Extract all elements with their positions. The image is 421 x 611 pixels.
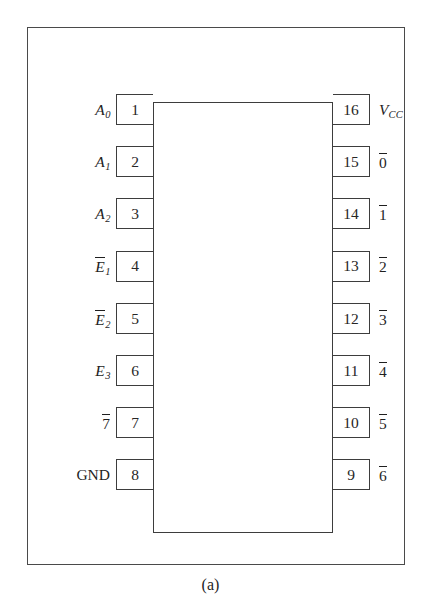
pin-row: 114 xyxy=(333,355,421,386)
pin-number-pad: 9 xyxy=(333,459,370,490)
pin-signal-label: 6 xyxy=(379,466,387,484)
signal-subscript: 0 xyxy=(105,110,110,121)
pin-row: 132 xyxy=(333,251,421,282)
active-low-overbar: E xyxy=(95,310,104,328)
pin-signal-label: 0 xyxy=(379,153,387,171)
pin-row: A01 xyxy=(58,94,153,125)
pin-number-pad: 3 xyxy=(116,198,153,229)
signal-subscript: CC xyxy=(388,110,402,121)
active-low-overbar: 4 xyxy=(379,362,387,380)
pin-signal-label: 1 xyxy=(379,205,387,223)
active-low-overbar: 3 xyxy=(379,310,387,328)
signal-subscript: 2 xyxy=(105,214,110,225)
active-low-overbar: 0 xyxy=(379,153,387,171)
pin-number-pad: 8 xyxy=(116,459,153,490)
pin-row: E36 xyxy=(58,355,153,386)
pin-number-pad: 6 xyxy=(116,355,153,386)
pin-signal-label: 5 xyxy=(379,414,387,432)
pin-number-pad: 5 xyxy=(116,303,153,334)
signal-name-text: A xyxy=(95,154,104,170)
active-low-overbar: 6 xyxy=(379,466,387,484)
pin-number-pad: 4 xyxy=(116,251,153,282)
pin-signal-label: A1 xyxy=(95,154,110,170)
signal-subscript: 1 xyxy=(105,267,110,278)
pin-signal-label: 2 xyxy=(379,257,387,275)
pin-number-pad: 2 xyxy=(116,146,153,177)
pin-signal-label: E2 xyxy=(95,310,110,328)
pin-number-pad: 14 xyxy=(333,198,370,229)
pin-row: GND8 xyxy=(58,459,153,490)
pin-number-pad: 15 xyxy=(333,146,370,177)
figure-caption: (a) xyxy=(0,576,421,594)
active-low-overbar: E xyxy=(95,257,104,275)
pin-row: 123 xyxy=(333,303,421,334)
pin-number-pad: 7 xyxy=(116,407,153,438)
pin-signal-label: A0 xyxy=(95,102,110,118)
signal-subscript: 3 xyxy=(105,371,110,382)
pin-signal-label: 7 xyxy=(102,414,110,432)
pin-signal-label: A2 xyxy=(95,206,110,222)
pin-number-pad: 12 xyxy=(333,303,370,334)
signal-name-text: A xyxy=(95,102,104,118)
signal-name-text: E xyxy=(95,363,104,379)
pin-row: 105 xyxy=(333,407,421,438)
pin-signal-label: 3 xyxy=(379,310,387,328)
pin-signal-label: GND xyxy=(76,467,110,483)
ic-package-body xyxy=(153,102,333,533)
pin-number-pad: 13 xyxy=(333,251,370,282)
active-low-overbar: 7 xyxy=(102,414,110,432)
pin-row: 96 xyxy=(333,459,421,490)
signal-subscript: 2 xyxy=(105,320,110,331)
active-low-overbar: 5 xyxy=(379,414,387,432)
active-low-overbar: 1 xyxy=(379,205,387,223)
pin-row: 77 xyxy=(58,407,153,438)
pin-row: E25 xyxy=(58,303,153,334)
active-low-overbar: 2 xyxy=(379,257,387,275)
pin-row: A23 xyxy=(58,198,153,229)
signal-subscript: 1 xyxy=(105,162,110,173)
pin-row: 150 xyxy=(333,146,421,177)
pin-number-pad: 10 xyxy=(333,407,370,438)
pin-signal-label: E3 xyxy=(95,363,110,379)
pin-row: A12 xyxy=(58,146,153,177)
pin-signal-label: E1 xyxy=(95,257,110,275)
pin-signal-label: 4 xyxy=(379,362,387,380)
pin-number-pad: 11 xyxy=(333,355,370,386)
figure-outer-frame: A01A12A23E14E25E3677GND816VCC15014113212… xyxy=(27,27,405,565)
signal-name-text: GND xyxy=(76,467,110,483)
pin-signal-label: VCC xyxy=(379,102,403,118)
pin-number-pad: 1 xyxy=(116,94,153,125)
pin-row: 16VCC xyxy=(333,94,421,125)
pin-row: E14 xyxy=(58,251,153,282)
signal-name-text: V xyxy=(379,102,388,118)
pin-row: 141 xyxy=(333,198,421,229)
pin-number-pad: 16 xyxy=(333,94,370,125)
signal-name-text: A xyxy=(95,206,104,222)
